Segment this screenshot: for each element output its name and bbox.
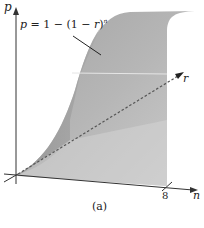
surface-plot-figure: p p = 1 − (1 − r)n r n 8 (a) (0, 0, 204, 228)
surface-plot (0, 0, 204, 228)
n-axis-label: n (193, 189, 200, 202)
equation-mid: = 1 − (1 − (27, 18, 94, 31)
equation-lhs: p (20, 18, 27, 31)
figure-caption: (a) (92, 200, 107, 213)
n-tick-label: 8 (162, 190, 168, 201)
r-axis-label: r (183, 72, 188, 85)
equation-label: p = 1 − (1 − r)n (20, 17, 107, 31)
equation-exponent: n (104, 17, 108, 24)
p-axis-label: p (4, 0, 12, 14)
p-axis-arrow-icon (13, 7, 19, 15)
